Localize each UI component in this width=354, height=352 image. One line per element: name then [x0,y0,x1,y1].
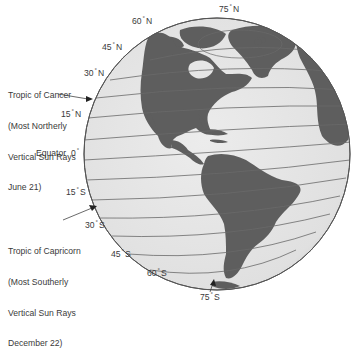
label-45n: 45°N [102,42,122,52]
label-75s: 75°S [200,292,220,302]
label-45s: 45°S [111,249,131,259]
label-75n: 75°N [219,4,239,14]
label-60s: 60°S [147,268,167,278]
tropic-of-capricorn-note: Tropic of Capricorn (Most Southerly Vert… [8,226,81,352]
label-60n: 60°N [132,16,152,26]
tropic-of-cancer-note: Tropic of Cancer (Most Northerly Vertica… [8,70,76,213]
label-30n: 30°N [84,68,104,78]
label-30s: 30°S [85,220,105,230]
